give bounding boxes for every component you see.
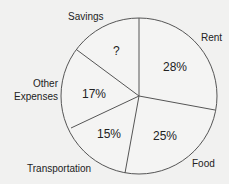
percent-savings: ? — [113, 44, 120, 58]
label-savings: Savings — [68, 11, 104, 22]
label-rent: Rent — [201, 32, 222, 43]
percent-food: 25% — [153, 129, 177, 143]
percent-other: 17% — [82, 87, 106, 101]
label-food: Food — [192, 158, 215, 169]
percent-transportation: 15% — [97, 127, 121, 141]
label-other-line1: Other — [31, 78, 58, 89]
percent-rent: 28% — [163, 60, 187, 74]
label-other-line2: Expenses — [8, 91, 58, 102]
label-transportation: Transportation — [27, 163, 91, 174]
